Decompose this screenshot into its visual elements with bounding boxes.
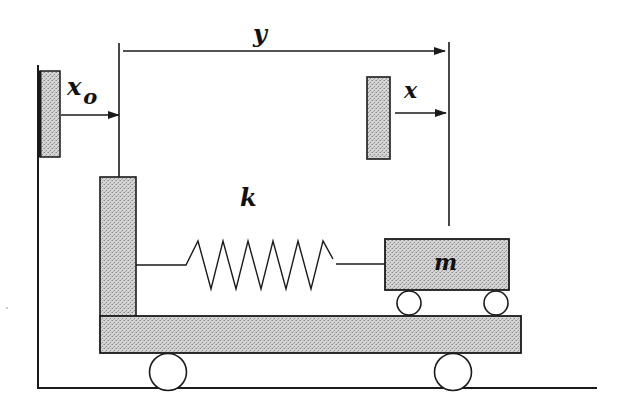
x-label: x [404, 79, 417, 101]
platform-wheel-right [435, 354, 472, 391]
spring-constant-label: k [240, 186, 257, 210]
x0-label: xo [67, 75, 95, 99]
mass-label: m [434, 251, 457, 273]
base-reference-block [40, 71, 60, 157]
y-label: y [253, 22, 267, 46]
base-platform [100, 316, 521, 353]
vertical-post [100, 177, 136, 317]
x0-label-subscript: o [83, 84, 97, 109]
x0-label-main: x [67, 72, 81, 101]
mass-reference-block [367, 77, 390, 159]
mass-wheel-left [397, 291, 421, 315]
spring-mass-diagram: xo y x k m [0, 0, 630, 419]
mass-wheel-right [484, 291, 508, 315]
platform-wheel-left [150, 354, 187, 391]
spring [136, 241, 333, 289]
stray-dot [6, 307, 8, 309]
